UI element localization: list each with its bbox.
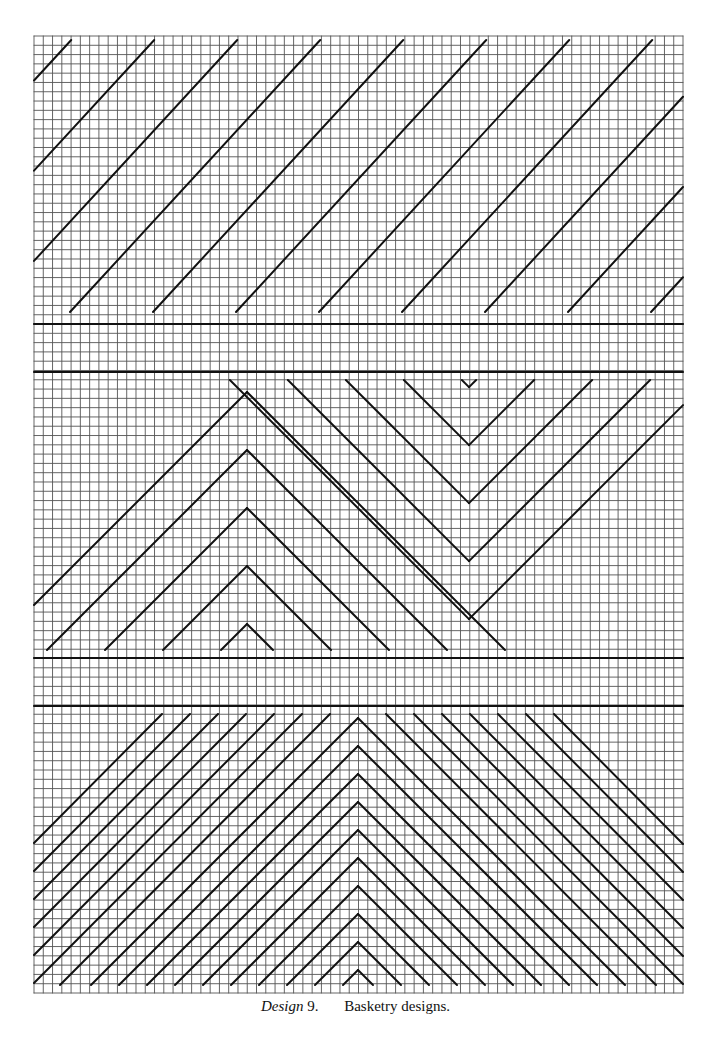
caption-text: Basketry designs. (344, 998, 450, 1014)
caption-design-label: Design (261, 998, 304, 1014)
caption-number: 9. (307, 998, 318, 1014)
basketry-design-diagram (0, 0, 711, 1044)
figure-caption: Design 9. Basketry designs. (0, 998, 711, 1015)
